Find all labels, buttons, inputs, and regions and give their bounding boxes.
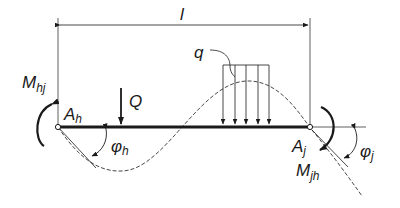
left-node-pin — [55, 124, 60, 129]
left-tangent-line — [58, 127, 96, 168]
span-label: l — [180, 5, 185, 24]
right-tangent-line — [312, 130, 348, 167]
right-node-pin — [307, 124, 312, 129]
right-node-label: Aj — [291, 137, 306, 158]
left-rotation-label: φh — [111, 137, 129, 158]
left-moment-arc — [37, 104, 52, 146]
right-moment-arc — [320, 107, 334, 150]
point-load-label: Q — [129, 92, 142, 111]
load-leader-line — [210, 50, 235, 77]
left-rotation-arc — [92, 129, 106, 156]
beam-diagram: l q Q Ah Aj Mhj Mjh φh φj — [0, 0, 400, 208]
distributed-load — [223, 65, 269, 124]
left-moment-label: Mhj — [22, 73, 46, 95]
distributed-load-label: q — [194, 43, 204, 62]
left-node-label: Ah — [63, 105, 82, 126]
right-moment-label: Mjh — [296, 161, 320, 183]
right-rotation-label: φj — [360, 142, 374, 163]
right-rotation-arc — [344, 129, 357, 158]
